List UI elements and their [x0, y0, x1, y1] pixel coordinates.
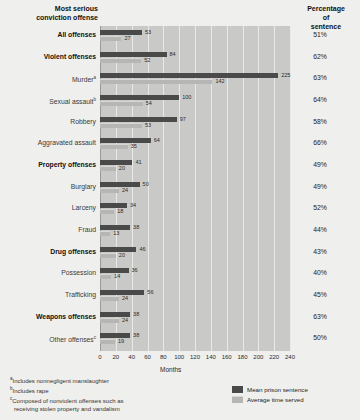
bar-value-label-served: 52: [144, 58, 150, 63]
bar-mean-prison-sentence: [100, 30, 142, 35]
chart-bar-group: 225142: [100, 73, 290, 85]
category-footnote-marker: c: [94, 335, 96, 340]
bar-value-label-mean: 38: [133, 225, 139, 230]
category-label-text: Sexual assault: [49, 98, 93, 105]
bar-value-label-mean: 100: [182, 95, 191, 100]
category-footnote-marker: b: [93, 97, 96, 102]
category-label: Aggravated assault: [0, 139, 96, 147]
chart-bar-group: 3813: [100, 225, 290, 237]
category-label-text: Larceny: [72, 204, 96, 211]
category-footnote-marker: a: [93, 75, 96, 80]
bar-value-label-mean: 64: [154, 138, 160, 143]
footnote-b: bIncludes rape: [10, 385, 200, 395]
bar-value-label-mean: 41: [135, 160, 141, 165]
category-label-text: All offenses: [57, 31, 96, 38]
category-label-text: Aggravated assault: [38, 139, 96, 146]
category-label: Property offenses: [0, 161, 96, 169]
bar-value-label-mean: 34: [130, 203, 136, 208]
bar-value-label-served: 24: [122, 188, 128, 193]
chart-bar-group: 3418: [100, 203, 290, 215]
legend-item-mean: Mean prison sentence: [232, 386, 308, 393]
bar-average-time-served: [100, 231, 110, 236]
category-label-text: Other offenses: [49, 337, 93, 344]
bar-average-time-served: [100, 36, 121, 41]
legend-label-served: Average time served: [247, 396, 304, 403]
bar-value-label-served: 24: [122, 296, 128, 301]
category-label: Fraud: [0, 226, 96, 234]
category-label: Possession: [0, 269, 96, 277]
category-label: Robbery: [0, 118, 96, 126]
chart-page: Most serious conviction offense Percenta…: [0, 0, 360, 420]
bar-mean-prison-sentence: [100, 182, 140, 187]
category-label: Larceny: [0, 204, 96, 212]
chart-bar-group: 3824: [100, 312, 290, 324]
chart-left-header: Most serious conviction offense: [6, 4, 98, 22]
category-label: Burglary: [0, 183, 96, 191]
category-label-text: Weapons offenses: [36, 313, 96, 320]
bar-value-label-mean: 38: [133, 333, 139, 338]
legend-label-mean: Mean prison sentence: [247, 386, 308, 393]
chart-right-header: Percentage of sentence: [296, 4, 356, 31]
footnote-a: aIncludes nonnegligent manslaughter: [10, 375, 200, 385]
bar-value-label-served: 24: [122, 318, 128, 323]
footnote-b-text: Includes rape: [13, 388, 49, 394]
percentage-of-sentence-value: 52%: [296, 204, 344, 211]
chart-bar-group: 3614: [100, 268, 290, 280]
percentage-of-sentence-value: 45%: [296, 291, 344, 298]
bar-mean-prison-sentence: [100, 117, 177, 122]
percentage-of-sentence-value: 51%: [296, 31, 344, 38]
chart-bar-group: 5624: [100, 290, 290, 302]
bar-value-label-served: 20: [119, 166, 125, 171]
bar-value-label-served: 53: [145, 123, 151, 128]
bar-value-label-served: 18: [117, 209, 123, 214]
bar-value-label-mean: 84: [170, 52, 176, 57]
bar-mean-prison-sentence: [100, 247, 136, 252]
percentage-of-sentence-value: 64%: [296, 96, 344, 103]
category-label: Murdera: [0, 74, 96, 84]
category-label: Sexual assaultb: [0, 96, 96, 106]
bar-value-label-mean: 46: [139, 247, 145, 252]
percentage-of-sentence-value: 58%: [296, 118, 344, 125]
category-label-text: Violent offenses: [44, 53, 96, 60]
bar-value-label-mean: 225: [281, 73, 290, 78]
category-label-text: Robbery: [70, 118, 96, 125]
bar-average-time-served: [100, 209, 114, 214]
category-label: Violent offenses: [0, 53, 96, 61]
category-label-text: Possession: [61, 269, 96, 276]
bar-value-label-mean: 56: [147, 290, 153, 295]
category-label: Weapons offenses: [0, 313, 96, 321]
bar-value-label-served: 19: [118, 339, 124, 344]
category-label: Trafficking: [0, 291, 96, 299]
footnote-c: cComposed of nonviolent offenses such as…: [10, 395, 200, 413]
right-header-line1: Percentage: [296, 4, 356, 13]
bar-mean-prison-sentence: [100, 312, 130, 317]
bar-value-label-served: 54: [146, 101, 152, 106]
percentage-of-sentence-value: 49%: [296, 161, 344, 168]
bar-mean-prison-sentence: [100, 160, 132, 165]
bar-value-label-served: 142: [215, 79, 224, 84]
chart-bar-group: 5024: [100, 182, 290, 194]
plot-area: 5327845222514210054975364354120502434183…: [100, 26, 290, 351]
bar-average-time-served: [100, 253, 116, 258]
bar-average-time-served: [100, 123, 142, 128]
category-label: Drug offenses: [0, 248, 96, 256]
footnote-a-text: Includes nonnegligent manslaughter: [13, 378, 109, 384]
bar-value-label-mean: 38: [133, 312, 139, 317]
bar-average-time-served: [100, 296, 119, 301]
category-label-text: Property offenses: [38, 161, 96, 168]
bar-average-time-served: [100, 318, 119, 323]
bar-average-time-served: [100, 274, 111, 279]
bar-mean-prison-sentence: [100, 333, 130, 338]
chart-bar-group: 8452: [100, 52, 290, 64]
percentage-of-sentence-value: 44%: [296, 226, 344, 233]
bar-average-time-served: [100, 58, 141, 63]
chart-bar-group: 3819: [100, 333, 290, 345]
chart-bar-group: 4120: [100, 160, 290, 172]
bar-mean-prison-sentence: [100, 73, 278, 78]
bar-average-time-served: [100, 339, 115, 344]
legend-swatch-mean-icon: [232, 386, 243, 393]
footnotes: aIncludes nonnegligent manslaughter bInc…: [10, 375, 200, 413]
bar-value-label-served: 14: [114, 274, 120, 279]
chart-bar-group: 5327: [100, 30, 290, 42]
chart-bar-group: 6435: [100, 138, 290, 150]
